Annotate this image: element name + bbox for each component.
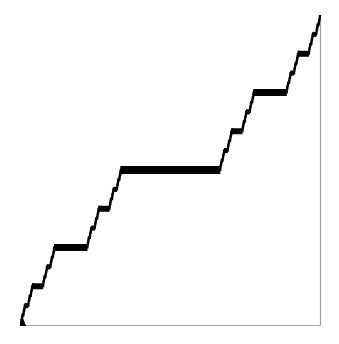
plateau-segment: [54, 244, 87, 251]
cantor-staircase-chart: Cantor function (devil's staircase): mon…: [0, 0, 339, 344]
chart-canvas: [0, 0, 339, 344]
plateau-segment: [121, 166, 221, 174]
plateau-segment: [254, 89, 287, 96]
